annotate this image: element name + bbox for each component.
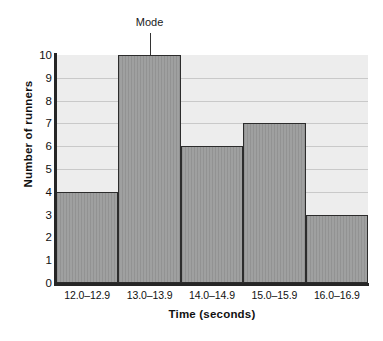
mode-leader-line bbox=[150, 33, 151, 55]
y-axis-tick-label: 8 bbox=[28, 95, 52, 107]
histogram-bar bbox=[306, 215, 368, 283]
gridline bbox=[56, 78, 368, 79]
histogram-bar bbox=[243, 123, 305, 283]
y-axis-line bbox=[54, 53, 57, 285]
histogram-figure: Mode Number of runners 109876543210 12.0… bbox=[0, 0, 383, 341]
x-axis-tick-label: 16.0–16.9 bbox=[300, 289, 374, 301]
mode-annotation-label: Mode bbox=[119, 16, 181, 28]
y-axis-tick-label: 0 bbox=[28, 277, 52, 289]
mode-annotation: Mode bbox=[119, 16, 181, 55]
x-axis-line bbox=[54, 283, 369, 286]
y-axis-tick-label: 4 bbox=[28, 186, 52, 198]
y-axis-tick-label: 3 bbox=[28, 209, 52, 221]
gridline bbox=[56, 123, 368, 124]
histogram-bar bbox=[118, 55, 180, 283]
histogram-bar bbox=[181, 146, 243, 283]
plot-area bbox=[56, 55, 368, 283]
x-axis-title: Time (seconds) bbox=[56, 308, 368, 320]
y-axis-tick-label: 5 bbox=[28, 163, 52, 175]
y-axis-tick-labels: 109876543210 bbox=[28, 48, 52, 290]
y-axis-tick-label: 1 bbox=[28, 254, 52, 266]
x-axis-tick-labels: 12.0–12.913.0–13.914.0–14.915.0–15.916.0… bbox=[56, 289, 368, 305]
histogram-bar bbox=[56, 192, 118, 283]
y-axis-tick-label: 6 bbox=[28, 140, 52, 152]
y-axis-tick-label: 10 bbox=[28, 49, 52, 61]
y-axis-tick-label: 7 bbox=[28, 117, 52, 129]
gridline bbox=[56, 101, 368, 102]
y-axis-tick-label: 9 bbox=[28, 72, 52, 84]
y-axis-tick-label: 2 bbox=[28, 231, 52, 243]
